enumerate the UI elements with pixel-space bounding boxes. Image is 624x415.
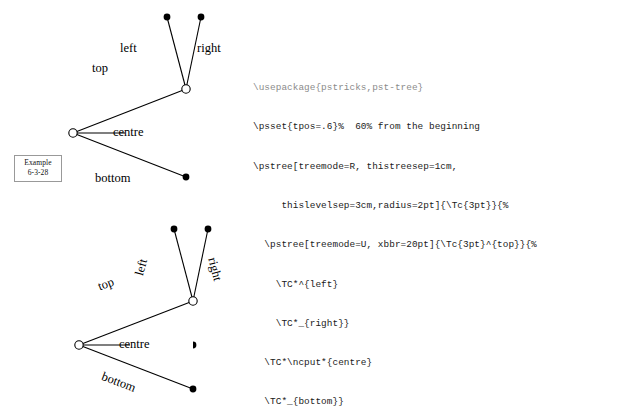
- node-top-open: [189, 297, 197, 305]
- edge-label-centre-1: centre: [113, 126, 144, 139]
- node-left-dot: [171, 226, 178, 233]
- edge-label-top-1: top: [92, 62, 108, 75]
- tree-edges-2: [79, 229, 208, 389]
- node-top-open: [182, 85, 190, 93]
- example-tag-1: Example 6-3-28: [14, 155, 62, 182]
- example-block-2: left right top centre bottom Example 6-3…: [0, 208, 624, 415]
- node-root-open: [69, 129, 77, 137]
- edge-label-bottom-1: bottom: [95, 172, 130, 185]
- node-bottom-dot: [183, 174, 190, 181]
- code-line: \psset{tpos=.6}% 60% from the beginning: [253, 120, 537, 133]
- code-line: \pstree[treemode=R, thistreesep=1cm,: [253, 160, 537, 173]
- tree-nodes-2: [75, 226, 212, 393]
- edge-top-left: [167, 17, 186, 89]
- edge-label-centre-2: centre: [119, 338, 150, 351]
- edge-label-right-1: right: [197, 42, 221, 55]
- tree-edges-1: [73, 17, 201, 177]
- example-block-1: left right top centre bottom Example 6-3…: [0, 0, 624, 207]
- tree-figure-2: left right top centre bottom: [0, 208, 250, 415]
- node-root-open: [75, 341, 83, 349]
- node-right-dot: [198, 14, 205, 21]
- example-tag-number-1: 6-3-28: [19, 168, 57, 178]
- node-bottom-dot: [190, 386, 197, 393]
- node-left-dot: [164, 14, 171, 21]
- document-page: left right top centre bottom Example 6-3…: [0, 0, 624, 415]
- node-right-dot: [205, 226, 212, 233]
- edge-top-left: [174, 229, 193, 301]
- example-tag-word-1: Example: [19, 158, 57, 168]
- code-line: \usepackage{pstricks,pst-tree}: [253, 81, 537, 94]
- edge-label-left-1: left: [120, 42, 137, 55]
- tree-nodes-1: [69, 14, 205, 181]
